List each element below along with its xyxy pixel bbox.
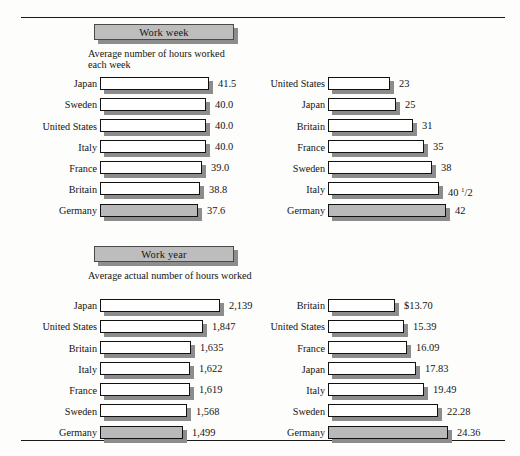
bar-category-label: United States xyxy=(0,121,97,132)
bar xyxy=(100,299,220,312)
bar-graphic xyxy=(328,96,402,117)
bar-graphic xyxy=(100,382,196,403)
bar xyxy=(100,77,209,90)
bar-category-label: Italy xyxy=(0,142,97,153)
bar-graphic xyxy=(328,202,452,223)
bar xyxy=(100,383,190,396)
bar-graphic xyxy=(100,424,189,445)
bar xyxy=(328,341,407,354)
bar xyxy=(328,362,416,375)
bar-category-label: Sweden xyxy=(215,163,325,174)
bar xyxy=(100,341,191,354)
bar-graphic xyxy=(100,297,226,318)
bar xyxy=(100,140,206,153)
bar-value-label: 23 xyxy=(399,78,409,90)
bar xyxy=(100,426,183,439)
bar-graphic xyxy=(100,361,196,382)
bar xyxy=(100,362,190,375)
bar-graphic xyxy=(328,361,422,382)
bar xyxy=(328,140,424,153)
bar-graphic xyxy=(328,382,430,403)
bar-category-label: Sweden xyxy=(0,406,97,417)
bar-value-label: 22.28 xyxy=(447,406,470,418)
bar-value-label: 16.09 xyxy=(416,342,439,354)
bar-category-label: United States xyxy=(215,78,325,89)
bar xyxy=(328,204,446,217)
bar-graphic xyxy=(100,160,208,181)
bar xyxy=(100,161,202,174)
bar-graphic xyxy=(100,202,204,223)
bar-value-label: 38 xyxy=(441,162,451,174)
bar-category-label: Germany xyxy=(0,205,97,216)
bar-category-label: United States xyxy=(0,321,97,332)
bar-category-label: France xyxy=(0,163,97,174)
bar-graphic xyxy=(100,403,193,424)
bar-category-label: France xyxy=(0,385,97,396)
bar-value-label: 31 xyxy=(422,120,432,132)
bar-value-label: 42 xyxy=(455,205,465,217)
bar xyxy=(328,426,448,439)
bar-category-label: Sweden xyxy=(215,406,325,417)
bar-graphic xyxy=(100,318,209,339)
bar xyxy=(328,182,439,195)
bar-category-label: Japan xyxy=(0,78,97,89)
bar-value-label: 1,499 xyxy=(192,427,215,439)
bar-category-label: Japan xyxy=(215,364,325,375)
bar-value-label: 24.36 xyxy=(457,427,480,439)
bar xyxy=(328,98,396,111)
bar-category-label: Britain xyxy=(215,300,325,311)
bar-graphic xyxy=(328,318,410,339)
bar-category-label: Germany xyxy=(0,427,97,438)
bar xyxy=(328,320,404,333)
bar-graphic xyxy=(100,96,212,117)
bar-category-label: France xyxy=(215,343,325,354)
bar-graphic xyxy=(100,75,215,96)
bar-value-label: 40 1/2 xyxy=(448,184,473,199)
bar-graphic xyxy=(328,403,444,424)
bar-value-label: 25 xyxy=(405,99,415,111)
bar-graphic xyxy=(328,117,419,138)
bar-graphic xyxy=(100,139,212,160)
bar-category-label: Germany xyxy=(215,427,325,438)
bar-graphic xyxy=(328,424,454,445)
panel-title-work-year: Work year xyxy=(94,246,234,262)
bar-value-label: 17.83 xyxy=(425,363,448,375)
panel-subtitle-work-year: Average actual number of hours worked xyxy=(88,270,253,281)
bar-value-label: 19.49 xyxy=(433,384,456,396)
bar xyxy=(328,404,438,417)
bar-category-label: Italy xyxy=(215,184,325,195)
bar-category-label: Japan xyxy=(0,300,97,311)
bar-category-label: Britain xyxy=(0,184,97,195)
bar-category-label: United States xyxy=(215,321,325,332)
bar xyxy=(328,119,413,132)
bar-value-label: 35 xyxy=(433,141,443,153)
bar xyxy=(100,320,203,333)
bar xyxy=(100,119,206,132)
bar-graphic xyxy=(328,181,445,202)
bar xyxy=(100,204,198,217)
bar-graphic xyxy=(328,75,396,96)
bar-value-label: $13.70 xyxy=(404,300,433,312)
bar-category-label: Japan xyxy=(215,99,325,110)
bar xyxy=(328,383,424,396)
bar-category-label: Britain xyxy=(215,121,325,132)
bar-category-label: Italy xyxy=(215,385,325,396)
bar-graphic xyxy=(100,117,212,138)
bar-category-label: Sweden xyxy=(0,99,97,110)
bar-graphic xyxy=(328,339,413,360)
bar-category-label: Britain xyxy=(0,343,97,354)
bar-graphic xyxy=(328,139,430,160)
bar-graphic xyxy=(100,181,206,202)
bar-graphic xyxy=(328,160,438,181)
panel-title-work-week: Work week xyxy=(94,24,234,40)
bar xyxy=(100,98,206,111)
bar xyxy=(328,77,390,90)
bar-category-label: Italy xyxy=(0,364,97,375)
bar xyxy=(328,299,395,312)
bar-graphic xyxy=(328,297,401,318)
bar xyxy=(328,161,432,174)
bar xyxy=(100,182,200,195)
bar-value-label: 15.39 xyxy=(413,321,436,333)
four-panel-bar-chart-figure: Work weekAverage number of hours worked … xyxy=(0,0,520,456)
panel-subtitle-work-week: Average number of hours worked each week xyxy=(88,48,238,71)
